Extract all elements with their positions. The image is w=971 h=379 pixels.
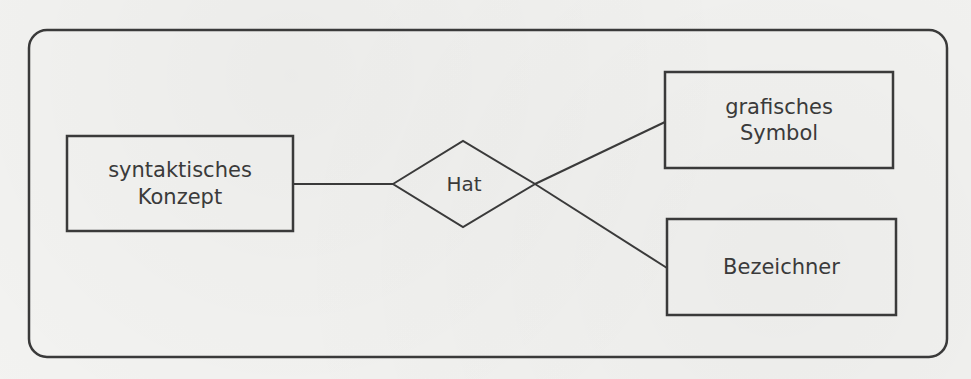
relationship-label-hat: Hat [393, 141, 535, 227]
entity-label-syntaktisches-konzept: syntaktisches Konzept [67, 136, 293, 231]
entity-label-line1: grafisches [725, 94, 833, 120]
entity-label-grafisches-symbol: grafisches Symbol [665, 72, 893, 168]
entity-label-bezeichner: Bezeichner [667, 219, 896, 315]
diagram-page: syntaktisches Konzept Hat grafisches Sym… [0, 0, 971, 379]
entity-label-line1: Bezeichner [723, 254, 840, 280]
relationship-label-text: Hat [446, 172, 481, 197]
connector-hat-bezeichner [535, 184, 667, 268]
entity-label-line2: Konzept [138, 184, 222, 210]
connector-hat-symbol [535, 122, 665, 184]
entity-label-line2: Symbol [740, 120, 818, 146]
entity-label-line1: syntaktisches [108, 157, 252, 183]
